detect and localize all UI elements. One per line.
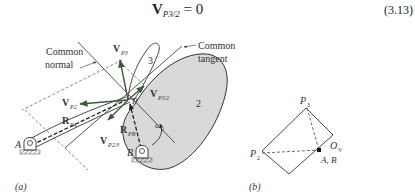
label-r-pb-sub: PB bbox=[127, 131, 136, 137]
link-ap-band bbox=[28, 97, 126, 140]
label-v-p2: V bbox=[62, 97, 70, 108]
figure-b: P 3 P 2 O V A, B (b) bbox=[249, 95, 343, 192]
v-p2-3-vector bbox=[108, 100, 128, 120]
caption-a: (a) bbox=[15, 181, 27, 192]
label-common-normal-1: Common bbox=[46, 46, 83, 57]
origin-ov-dot bbox=[317, 148, 321, 152]
label-common-tangent-2: tangent bbox=[198, 53, 228, 64]
label-p3: P bbox=[299, 95, 306, 106]
label-link-2: 2 bbox=[196, 98, 201, 109]
label-r-pa-sub: PA bbox=[69, 122, 77, 128]
label-p2-sub: 2 bbox=[257, 155, 260, 161]
figure-a: Common normal Common tangent V P3 V P2 V… bbox=[14, 40, 235, 192]
label-v-p3-sub: P3 bbox=[120, 50, 128, 56]
label-ov: O bbox=[330, 140, 337, 151]
velocity-op3 bbox=[307, 108, 319, 150]
label-ab: A, B bbox=[320, 155, 337, 165]
label-p3-sub: 3 bbox=[307, 102, 310, 108]
label-common-tangent-1: Common bbox=[198, 40, 235, 51]
label-pivot-b: B bbox=[127, 147, 133, 158]
label-r-pb: R bbox=[120, 124, 128, 135]
label-v-p3: V bbox=[113, 43, 121, 54]
label-omega-sub: 2 bbox=[161, 126, 164, 132]
label-r-pa: R bbox=[62, 115, 70, 126]
label-pivot-a: A bbox=[14, 139, 22, 150]
velocity-op2 bbox=[262, 150, 319, 153]
label-point-p: P bbox=[131, 96, 138, 106]
label-v-p3-2: V bbox=[150, 88, 158, 99]
label-v-p3-2-sub: P3/2 bbox=[157, 95, 169, 101]
label-ov-sub: V bbox=[338, 147, 343, 153]
label-p2: P bbox=[249, 148, 256, 159]
label-v-p2-sub: P2 bbox=[69, 104, 77, 110]
label-link-3: 3 bbox=[148, 55, 153, 66]
kinematics-figure: Common normal Common tangent V P3 V P2 V… bbox=[0, 0, 415, 192]
pivot-a bbox=[20, 138, 40, 155]
label-v-p2-3-sub: P2/3 bbox=[107, 142, 119, 148]
label-common-normal-2: normal bbox=[45, 59, 74, 70]
caption-b: (b) bbox=[249, 181, 261, 192]
label-v-p2-3: V bbox=[100, 135, 108, 146]
